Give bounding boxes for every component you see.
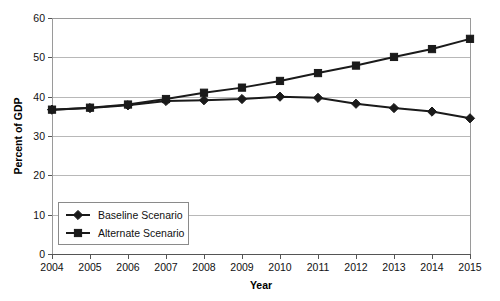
x-tick-label-2011: 2011	[307, 261, 330, 273]
x-axis-ticks: 2004200520062007200820092010201120122013…	[40, 254, 482, 273]
data-point-2015-1	[466, 35, 473, 42]
y-tick-label-60: 60	[33, 12, 45, 24]
data-point-2015-0	[465, 114, 474, 123]
x-axis-title: Year	[250, 279, 272, 291]
y-tick-label-0: 0	[39, 248, 45, 260]
x-tick-label-2006: 2006	[116, 261, 140, 273]
data-point-2011-0	[313, 93, 322, 102]
x-tick-label-2015: 2015	[458, 261, 482, 273]
data-point-2008-1	[200, 89, 207, 96]
x-tick-label-2008: 2008	[192, 261, 216, 273]
data-point-2013-0	[389, 103, 398, 112]
data-point-2004-1	[48, 106, 55, 113]
y-tick-label-20: 20	[33, 169, 45, 181]
data-point-2012-0	[351, 99, 360, 108]
data-point-2005-1	[86, 104, 93, 111]
legend-label-1: Alternate Scenario	[98, 227, 185, 239]
y-axis-title: Percent of GDP	[12, 97, 24, 174]
data-point-2010-1	[276, 77, 283, 84]
x-tick-label-2004: 2004	[40, 261, 64, 273]
x-tick-label-2014: 2014	[420, 261, 444, 273]
data-point-2006-1	[124, 101, 131, 108]
data-point-2012-1	[352, 62, 359, 69]
line-chart: 0102030405060200420052006200720082009201…	[0, 0, 500, 301]
series-line-0	[52, 97, 470, 119]
data-point-2009-1	[238, 84, 245, 91]
data-point-2009-0	[237, 94, 246, 103]
legend: Baseline ScenarioAlternate Scenario	[59, 203, 189, 245]
legend-label-0: Baseline Scenario	[98, 209, 183, 221]
x-tick-label-2013: 2013	[382, 261, 406, 273]
x-tick-label-2009: 2009	[230, 261, 254, 273]
data-point-2011-1	[314, 69, 321, 76]
x-tick-label-2010: 2010	[268, 261, 292, 273]
series-line-1	[52, 39, 470, 110]
x-tick-label-2007: 2007	[154, 261, 178, 273]
square-marker	[74, 229, 81, 236]
data-point-2010-0	[275, 92, 284, 101]
y-tick-label-50: 50	[33, 51, 45, 63]
x-tick-label-2012: 2012	[344, 261, 368, 273]
series-alternate-scenario	[48, 35, 473, 113]
chart-container: 0102030405060200420052006200720082009201…	[0, 0, 500, 301]
data-point-2007-1	[162, 95, 169, 102]
x-tick-label-2005: 2005	[78, 261, 102, 273]
y-tick-label-10: 10	[33, 209, 45, 221]
data-point-2014-1	[428, 45, 435, 52]
data-point-2014-0	[427, 107, 436, 116]
y-tick-label-30: 30	[33, 130, 45, 142]
data-point-2013-1	[390, 53, 397, 60]
y-tick-label-40: 40	[33, 91, 45, 103]
